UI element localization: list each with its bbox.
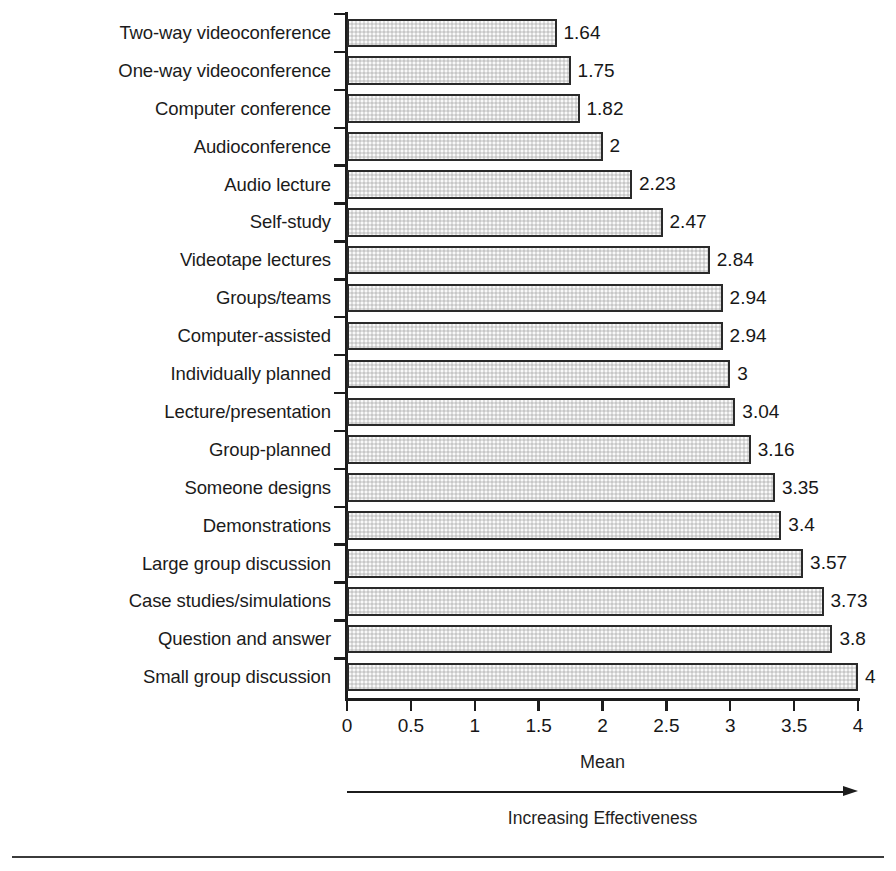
bar-row: Groups/teams2.94 — [347, 279, 858, 317]
bar-value-label: 3.8 — [839, 628, 865, 650]
y-axis-tick — [334, 316, 345, 318]
bar-value-label: 4 — [865, 666, 876, 688]
bar: 1.75 — [347, 56, 571, 85]
plot-area: Two-way videoconference1.64One-way video… — [347, 14, 858, 696]
bar-row: Group-planned3.16 — [347, 431, 858, 469]
category-label: Group-planned — [209, 439, 331, 461]
category-label: Small group discussion — [143, 666, 331, 688]
y-axis-tick — [334, 51, 345, 53]
bar-row: Case studies/simulations3.73 — [347, 583, 858, 621]
category-label: Self-study — [250, 211, 331, 233]
x-axis-tick-label: 3.5 — [781, 715, 807, 737]
category-label: Individually planned — [170, 363, 331, 385]
x-axis-tick — [857, 698, 859, 711]
category-label: One-way videoconference — [118, 60, 331, 82]
bar-row: Computer-assisted2.94 — [347, 317, 858, 355]
bar-value-label: 1.75 — [578, 60, 615, 82]
bar-value-label: 2.94 — [730, 325, 767, 347]
bar-value-label: 3 — [737, 363, 748, 385]
category-label: Case studies/simulations — [129, 590, 331, 612]
bar: 2.47 — [347, 208, 663, 237]
bar-value-label: 1.82 — [587, 98, 624, 120]
category-label: Groups/teams — [216, 287, 331, 309]
y-axis-tick — [334, 240, 345, 242]
bar: 3.57 — [347, 549, 803, 578]
bar: 3.4 — [347, 511, 781, 540]
y-axis-tick — [334, 581, 345, 583]
bottom-divider — [12, 856, 884, 858]
y-axis-tick — [334, 430, 345, 432]
x-axis-tick-label: 0 — [342, 715, 353, 737]
bar-row: Small group discussion4 — [347, 658, 858, 696]
bar-value-label: 3.57 — [810, 552, 847, 574]
y-axis-tick — [334, 278, 345, 280]
bar: 3 — [347, 360, 730, 389]
x-axis-tick-label: 3 — [725, 715, 736, 737]
category-label: Two-way videoconference — [119, 22, 331, 44]
y-axis-tick — [334, 657, 345, 659]
y-axis-tick — [334, 13, 345, 15]
bar-value-label: 3.4 — [788, 514, 814, 536]
bar: 3.04 — [347, 398, 735, 427]
category-label: Question and answer — [158, 628, 331, 650]
y-axis-tick — [334, 89, 345, 91]
y-axis-tick — [334, 164, 345, 166]
increasing-effectiveness-arrow — [347, 784, 860, 800]
bar: 3.16 — [347, 435, 751, 464]
bar-value-label: 3.16 — [758, 439, 795, 461]
x-axis-tick-label: 4 — [853, 715, 864, 737]
bar-value-label: 2.47 — [670, 211, 707, 233]
bar: 1.82 — [347, 94, 580, 123]
y-axis-tick — [334, 543, 345, 545]
bar-row: Videotape lectures2.84 — [347, 241, 858, 279]
x-axis-tick — [601, 698, 603, 711]
category-label: Audioconference — [194, 136, 331, 158]
bar-value-label: 2.23 — [639, 173, 676, 195]
bar-row: Audioconference2 — [347, 128, 858, 166]
bar: 2.84 — [347, 246, 710, 275]
y-axis-tick — [334, 468, 345, 470]
bar-row: Demonstrations3.4 — [347, 507, 858, 545]
bar: 1.64 — [347, 19, 557, 48]
y-axis-tick — [334, 127, 345, 129]
bar: 3.73 — [347, 587, 824, 616]
category-label: Computer-assisted — [177, 325, 331, 347]
bar-row: Two-way videoconference1.64 — [347, 14, 858, 52]
y-axis-tick — [334, 354, 345, 356]
bar: 2.23 — [347, 170, 632, 199]
bar: 3.35 — [347, 473, 775, 502]
category-label: Demonstrations — [203, 515, 331, 537]
y-axis-tick — [334, 506, 345, 508]
bar-row: Someone designs3.35 — [347, 469, 858, 507]
y-axis-tick — [334, 202, 345, 204]
x-axis-tick — [793, 698, 795, 711]
arrow-line — [347, 791, 847, 793]
bar-value-label: 3.04 — [742, 401, 779, 423]
category-label: Computer conference — [155, 98, 331, 120]
x-axis-tick-label: 0.5 — [398, 715, 424, 737]
bar-row: Self-study2.47 — [347, 204, 858, 242]
x-axis-tick-label: 2 — [597, 715, 608, 737]
category-label: Videotape lectures — [180, 249, 331, 271]
x-axis-tick-label: 2.5 — [653, 715, 679, 737]
bar-chart-figure: Learning Format Two-way videoconference1… — [0, 0, 896, 871]
category-label: Lecture/presentation — [164, 401, 331, 423]
bar-row: Question and answer3.8 — [347, 620, 858, 658]
bar-value-label: 2.84 — [717, 249, 754, 271]
bar-value-label: 3.35 — [782, 477, 819, 499]
bar-value-label: 1.64 — [564, 22, 601, 44]
category-label: Someone designs — [184, 477, 331, 499]
x-axis-tick — [410, 698, 412, 711]
category-label: Large group discussion — [142, 553, 331, 575]
bar-row: Large group discussion3.57 — [347, 545, 858, 583]
bar-row: Individually planned3 — [347, 355, 858, 393]
x-axis-tick-label: 1.5 — [525, 715, 551, 737]
bar-row: Audio lecture2.23 — [347, 166, 858, 204]
x-axis-tick — [474, 698, 476, 711]
bar-value-label: 3.73 — [831, 590, 868, 612]
bar: 2.94 — [347, 322, 723, 351]
y-axis-tick — [334, 619, 345, 621]
x-axis-tick-label: 1 — [469, 715, 480, 737]
category-label: Audio lecture — [224, 174, 331, 196]
bar: 3.8 — [347, 625, 832, 654]
